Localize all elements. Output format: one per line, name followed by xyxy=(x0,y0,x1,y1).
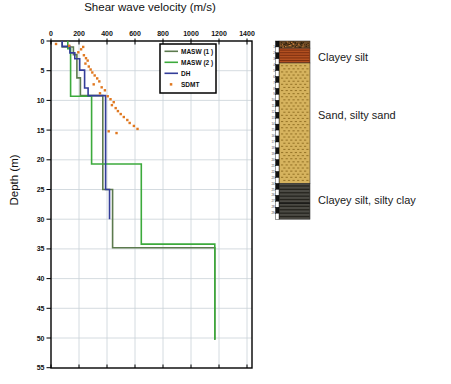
x-tick-label: 200 xyxy=(73,30,85,37)
sdmt-point xyxy=(83,54,85,56)
vs-depth-figure: 0200400600800100012001400051015202530354… xyxy=(0,0,451,384)
soil-depth-mark: 7 xyxy=(273,81,275,85)
soil-depth-mark: 24 xyxy=(271,182,275,186)
y-tick-label: 25 xyxy=(37,186,45,193)
sdmt-point xyxy=(107,130,109,132)
soil-label-sand-silty-sand: Sand, silty sand xyxy=(318,109,396,121)
sdmt-point xyxy=(91,71,93,73)
soil-label-clayey-silt-clay: Clayey silt, silty clay xyxy=(318,194,416,206)
soil-depth-mark: 27 xyxy=(271,199,275,203)
sdmt-point xyxy=(77,51,79,53)
sdmt-point xyxy=(98,80,100,82)
legend-label: MASW (2 ) xyxy=(181,59,213,67)
soil-depth-mark: 13 xyxy=(271,116,275,120)
y-tick-label: 15 xyxy=(37,127,45,134)
soil-depth-mark: 17 xyxy=(271,140,275,144)
soil-depth-mark: 18 xyxy=(271,146,275,150)
figure-canvas: Shear wave velocity (m/s) Depth (m) 0200… xyxy=(0,0,451,384)
soil-depth-mark: 10 xyxy=(271,98,275,102)
soil-layer-clayey-silt xyxy=(279,48,310,63)
y-tick-label: 0 xyxy=(41,38,45,45)
sdmt-point xyxy=(107,95,109,97)
sdmt-point xyxy=(93,83,95,85)
soil-depth-mark: 2 xyxy=(273,51,275,55)
soil-depth-mark: 4 xyxy=(273,63,275,67)
soil-depth-mark: 21 xyxy=(271,164,275,168)
soil-layer-clayey-silt-silty-clay xyxy=(279,184,310,220)
axis-ticks xyxy=(47,39,248,369)
sdmt-point xyxy=(109,98,111,100)
sdmt-point xyxy=(126,119,128,121)
soil-depth-mark: 15 xyxy=(271,128,275,132)
sdmt-point xyxy=(68,45,70,47)
x-tick-label: 400 xyxy=(101,30,113,37)
soil-depth-mark: 9 xyxy=(273,92,275,96)
y-tick-label: 5 xyxy=(41,67,45,74)
sdmt-point xyxy=(133,125,135,127)
sdmt-point xyxy=(111,104,113,106)
soil-depth-mark: 28 xyxy=(271,205,275,209)
sdmt-point xyxy=(55,43,57,45)
sdmt-point xyxy=(100,86,102,88)
sdmt-point xyxy=(85,57,87,59)
y-tick-label: 20 xyxy=(37,156,45,163)
axis-tick-labels: 0200400600800100012001400051015202530354… xyxy=(37,30,255,371)
soil-depth-mark: 6 xyxy=(273,75,275,79)
legend: MASW (1 )MASW (2 )DHSDMT xyxy=(160,44,216,93)
sdmt-point xyxy=(82,46,84,48)
sdmt-point xyxy=(120,113,122,115)
sdmt-point xyxy=(115,132,117,134)
sdmt-point xyxy=(123,116,125,118)
soil-depth-mark: 1 xyxy=(273,45,275,49)
soil-depth-mark: 11 xyxy=(272,104,275,108)
soil-column: 1234567891011121314151617181920212223242… xyxy=(271,41,310,219)
sdmt-point xyxy=(96,77,98,79)
y-tick-label: 30 xyxy=(37,216,45,223)
y-tick-label: 55 xyxy=(37,364,45,371)
sdmt-point xyxy=(86,59,88,61)
soil-layer-sand-silty-sand xyxy=(279,63,310,184)
sdmt-point xyxy=(136,128,138,130)
sdmt-point xyxy=(89,68,91,70)
x-tick-label: 0 xyxy=(49,30,53,37)
soil-depth-mark: 8 xyxy=(273,87,275,91)
soil-layer-topsoil-fill xyxy=(279,41,310,48)
soil-depth-mark: 19 xyxy=(271,152,275,156)
y-tick-label: 35 xyxy=(37,245,45,252)
soil-depth-mark: 25 xyxy=(271,188,275,192)
y-tick-label: 45 xyxy=(37,305,45,312)
legend-label: DH xyxy=(181,70,191,77)
soil-depth-mark: 26 xyxy=(271,193,275,197)
soil-depth-mark: 5 xyxy=(273,69,275,73)
soil-depth-mark: 20 xyxy=(271,158,275,162)
soil-depth-scale: 1234567891011121314151617181920212223242… xyxy=(271,41,279,219)
soil-depth-mark: 3 xyxy=(273,57,275,61)
soil-depth-mark: 23 xyxy=(271,176,275,180)
x-tick-label: 1200 xyxy=(211,30,227,37)
x-tick-label: 800 xyxy=(157,30,169,37)
y-tick-label: 10 xyxy=(37,97,45,104)
legend-label: MASW (1 ) xyxy=(181,48,213,56)
x-tick-label: 600 xyxy=(129,30,141,37)
y-tick-label: 50 xyxy=(37,335,45,342)
soil-depth-mark: 12 xyxy=(271,110,275,114)
series-sdmt xyxy=(55,43,139,134)
sdmt-point xyxy=(93,74,95,76)
sdmt-point xyxy=(84,62,86,64)
sdmt-point xyxy=(117,110,119,112)
sdmt-point xyxy=(113,101,115,103)
legend-label: SDMT xyxy=(181,81,199,88)
sdmt-point xyxy=(99,92,101,94)
sdmt-point xyxy=(104,89,106,91)
x-tick-label: 1000 xyxy=(183,30,199,37)
sdmt-point xyxy=(128,122,130,124)
soil-label-clayey-silt: Clayey silt xyxy=(318,51,368,63)
soil-depth-mark: 16 xyxy=(271,134,275,138)
sdmt-point xyxy=(114,107,116,109)
y-tick-label: 40 xyxy=(37,275,45,282)
legend-marker-sample xyxy=(170,83,173,86)
soil-depth-mark: 14 xyxy=(271,122,275,126)
soil-depth-mark: 29 xyxy=(271,211,275,215)
sdmt-point xyxy=(88,65,90,67)
sdmt-point xyxy=(80,48,82,50)
